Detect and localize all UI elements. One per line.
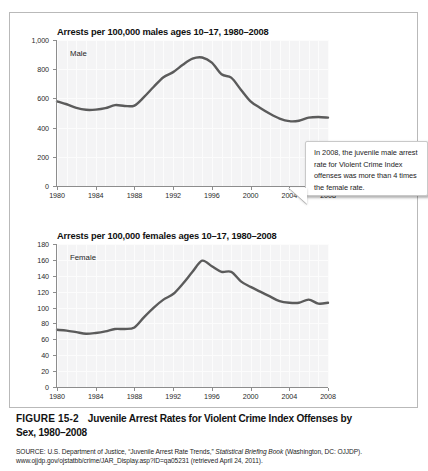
y-axis-tick-mark [53, 371, 56, 372]
y-axis-line [56, 40, 57, 186]
gridline-vertical [57, 244, 58, 387]
y-axis-tick-label: 1,000 [10, 36, 49, 45]
gridline-vertical [163, 40, 164, 186]
y-axis-tick-label: 20 [10, 367, 49, 376]
y-axis-tick-label: 160 [10, 256, 49, 265]
gridline-vertical [57, 40, 58, 186]
gridline-vertical [328, 244, 329, 387]
gridline-vertical [125, 40, 126, 186]
gridline-vertical [105, 40, 106, 186]
y-axis-tick-mark [53, 387, 56, 388]
gridline-vertical [154, 40, 155, 186]
callout-text: In 2008, the juvenile male arrest rate f… [314, 147, 422, 193]
x-axis-tick-mark [173, 187, 174, 190]
x-axis-tick-label: 1980 [37, 392, 77, 401]
x-axis-tick-label: 1984 [76, 392, 116, 401]
x-axis-tick-label: 1984 [76, 191, 116, 200]
y-axis-tick-mark [53, 186, 56, 187]
gridline-vertical [183, 244, 184, 387]
gridline-vertical [202, 40, 203, 186]
y-axis-tick-label: 800 [10, 65, 49, 74]
gridline-vertical [241, 244, 242, 387]
gridline-horizontal [57, 292, 328, 293]
source-italic-title: Statistical Briefing Book [215, 448, 283, 455]
gridline-vertical [309, 244, 310, 387]
gridline-horizontal [57, 98, 328, 99]
chart-female: Arrests per 100,000 females ages 10–17, … [10, 213, 419, 409]
x-axis-tick-mark [96, 187, 97, 190]
x-axis-tick-mark [96, 388, 97, 391]
gridline-vertical [299, 244, 300, 387]
gridline-horizontal [57, 276, 328, 277]
gridline-horizontal [57, 69, 328, 70]
gridline-horizontal [57, 355, 328, 356]
gridline-horizontal [57, 128, 328, 129]
gridline-vertical [96, 40, 97, 186]
gridline-vertical [144, 244, 145, 387]
y-axis-tick-mark [53, 69, 56, 70]
y-axis-tick-label: 40 [10, 351, 49, 360]
gridline-horizontal [57, 308, 328, 309]
gridline-horizontal [57, 339, 328, 340]
x-axis-tick-mark [212, 388, 213, 391]
gridline-vertical [193, 40, 194, 186]
gridline-horizontal [57, 260, 328, 261]
x-axis-tick-label: 2000 [231, 191, 271, 200]
gridline-vertical [280, 244, 281, 387]
gridline-vertical [260, 244, 261, 387]
gridline-vertical [202, 244, 203, 387]
callout-box: In 2008, the juvenile male arrest rate f… [305, 141, 428, 196]
x-axis-tick-mark [173, 388, 174, 391]
gridline-vertical [163, 244, 164, 387]
x-axis-tick-label: 1992 [153, 392, 193, 401]
gridline-vertical [222, 40, 223, 186]
x-axis-tick-label: 1988 [114, 191, 154, 200]
callout-tail [289, 188, 307, 204]
gridline-vertical [270, 40, 271, 186]
gridline-vertical [183, 40, 184, 186]
x-axis-tick-label: 2008 [308, 392, 348, 401]
y-axis-tick-mark [53, 40, 56, 41]
gridline-vertical [231, 244, 232, 387]
x-axis-tick-label: 1996 [192, 191, 232, 200]
y-axis-tick-mark [53, 98, 56, 99]
y-axis-tick-label: 60 [10, 335, 49, 344]
y-axis-tick-mark [53, 339, 56, 340]
x-axis-tick-mark [251, 187, 252, 190]
figure-caption-main: Juvenile Arrest Rates for Violent Crime … [88, 413, 352, 424]
y-axis-tick-label: 0 [10, 182, 49, 191]
y-axis-tick-mark [53, 292, 56, 293]
y-axis-tick-mark [53, 276, 56, 277]
x-axis-tick-mark [134, 388, 135, 391]
gridline-horizontal [57, 371, 328, 372]
x-axis-tick-mark [57, 187, 58, 190]
x-axis-tick-label: 2004 [269, 392, 309, 401]
gridline-vertical [289, 244, 290, 387]
y-axis-line [56, 244, 57, 387]
y-axis-tick-label: 200 [10, 153, 49, 162]
gridline-horizontal [57, 323, 328, 324]
gridline-vertical [173, 244, 174, 387]
figure-caption: FIGURE 15-2Juvenile Arrest Rates for Vio… [16, 412, 416, 439]
y-axis-tick-mark [53, 308, 56, 309]
figure-caption-second-line: Sex, 1980–2008 [16, 427, 87, 438]
y-axis-tick-mark [53, 128, 56, 129]
x-axis-tick-mark [289, 388, 290, 391]
x-axis-tick-mark [251, 388, 252, 391]
gridline-vertical [289, 40, 290, 186]
gridline-vertical [299, 40, 300, 186]
chart-male-title: Arrests per 100,000 males ages 10–17, 19… [57, 27, 269, 37]
gridline-vertical [96, 244, 97, 387]
y-axis-tick-mark [53, 260, 56, 261]
x-axis-tick-label: 2000 [231, 392, 271, 401]
x-axis-tick-mark [57, 388, 58, 391]
gridline-horizontal [57, 244, 328, 245]
gridline-vertical [318, 244, 319, 387]
gridline-vertical [241, 40, 242, 186]
y-axis-tick-mark [53, 244, 56, 245]
gridline-horizontal [57, 40, 328, 41]
x-axis-tick-label: 1996 [192, 392, 232, 401]
gridline-vertical [251, 40, 252, 186]
chart-frame: Arrests per 100,000 males ages 10–17, 19… [9, 12, 418, 408]
